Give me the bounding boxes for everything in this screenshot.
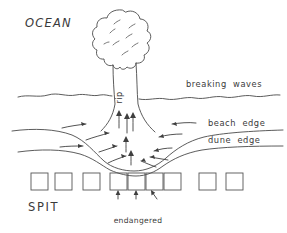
breaking-waves-label: breaking waves <box>186 80 262 89</box>
rip-neck-channel <box>101 63 155 132</box>
rip-current-diagram: OCEAN rip breaking waves beach edge dune… <box>0 0 287 233</box>
dune-edge-line <box>18 146 283 176</box>
house-square <box>55 173 72 190</box>
house-square <box>199 173 216 190</box>
house-square-endangered <box>110 173 127 190</box>
ocean-label: OCEAN <box>25 17 72 29</box>
dune-edge-label: dune edge <box>208 136 260 145</box>
house-square <box>226 173 243 190</box>
endangered-homes-label: endangered homes <box>106 201 170 233</box>
beach-edge-label: beach edge <box>208 119 265 128</box>
rip-head-blob <box>93 10 151 69</box>
rip-label: rip <box>116 92 124 104</box>
house-square <box>31 173 48 190</box>
diagram-canvas <box>0 0 287 233</box>
spit-label: SPIT <box>28 201 59 213</box>
breaking-wave-line <box>18 94 280 100</box>
endangered-homes-line-1: endangered <box>106 217 170 225</box>
endangered-homes-arrows <box>116 190 157 199</box>
house-square <box>83 173 100 190</box>
house-square <box>164 173 181 190</box>
house-square-endangered <box>146 173 163 190</box>
